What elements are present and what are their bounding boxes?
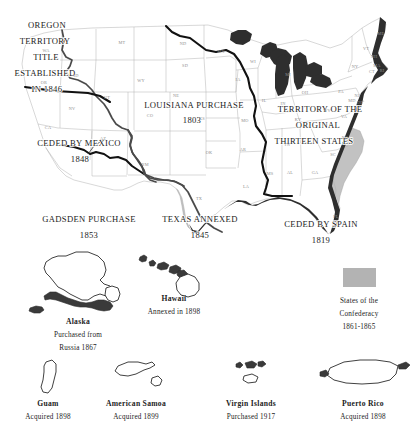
label-louisiana-purchase: LOUISIANA PURCHASE — [144, 100, 244, 110]
state-abbr-il: IL — [262, 98, 267, 103]
state-abbr-nv: NV — [69, 106, 76, 111]
state-abbr-ok: OK — [206, 150, 213, 155]
state-abbr-la: LA — [243, 184, 250, 189]
state-abbr-ut: UT — [104, 95, 110, 100]
state-abbr-ca: CA — [45, 125, 52, 130]
state-abbr-de: DE — [357, 100, 363, 105]
label-thirteen-line1: TERRITORY OF THE — [278, 104, 363, 114]
inset-alaska-name: Alaska — [66, 317, 90, 326]
state-abbr-nd: ND — [180, 41, 187, 46]
state-abbr-mn: MN — [217, 49, 224, 54]
state-abbr-id: ID — [74, 73, 79, 78]
label-ceded-by-mexico: CEDED BY MEXICO — [37, 138, 121, 148]
state-abbr-nm: NM — [141, 162, 148, 167]
inset-guam-sub1: Acquired 1898 — [25, 413, 71, 421]
state-abbr-al: AL — [287, 170, 293, 175]
state-abbr-sd: SD — [182, 63, 188, 68]
confederacy-legend: States of the Confederacy 1861-1865 — [340, 268, 379, 331]
inset-virgin-islands-sub1: Purchased 1917 — [227, 413, 276, 421]
state-abbr-wi: WI — [250, 59, 256, 64]
state-abbr-ny: NY — [352, 64, 359, 69]
label-thirteen-line2: ORIGINAL — [296, 120, 340, 130]
state-abbr-in: IN — [281, 101, 286, 106]
state-abbr-vt: VT — [363, 46, 369, 51]
inset-guam-name: Guam — [37, 399, 59, 408]
inset-guam: Guam Acquired 1898 — [25, 360, 71, 421]
label-oregon-line3: TITLE — [33, 52, 59, 62]
inset-hawaii-sub1: Annexed in 1898 — [148, 308, 201, 316]
label-oregon-line1: OREGON — [28, 20, 66, 30]
inset-american-samoa: American Samoa Acquired 1899 — [106, 362, 166, 421]
inset-samoa-sub1: Acquired 1899 — [113, 413, 159, 421]
inset-alaska-sub2: Russia 1867 — [59, 344, 97, 352]
map-page: OREGON TERRITORY TITLE ESTABLISHED IN 18… — [0, 0, 420, 431]
state-abbr-ne: NE — [173, 93, 179, 98]
state-abbr-nc: NC — [342, 135, 348, 140]
label-oregon-line5: IN 1846 — [32, 84, 63, 94]
label-mexico-year: 1848 — [71, 154, 89, 164]
state-abbr-wa: WA — [42, 48, 50, 53]
inset-puerto-rico-sub1: Acquired 1898 — [340, 413, 386, 421]
state-abbr-co: CO — [147, 113, 153, 118]
legend-line1: States of the — [340, 297, 378, 305]
legend-line3: 1861-1865 — [343, 323, 376, 331]
label-gadsden-purchase: GADSDEN PURCHASE — [42, 214, 136, 224]
inset-hawaii-name: Hawaii — [161, 294, 186, 303]
label-texas-year: 1845 — [191, 230, 209, 240]
territorial-acquisitions-map: OREGON TERRITORY TITLE ESTABLISHED IN 18… — [0, 0, 420, 431]
inset-puerto-rico: Puerto Rico Acquired 1898 — [320, 360, 410, 421]
state-abbr-mt: MT — [119, 40, 126, 45]
inset-virgin-islands-name: Virgin Islands — [226, 399, 276, 408]
state-abbr-wy: WY — [137, 78, 145, 83]
state-abbr-ks: KS — [199, 116, 205, 121]
state-abbr-ct: CT — [369, 69, 375, 74]
label-spain-year: 1819 — [312, 235, 330, 245]
state-abbr-ar: AR — [240, 147, 246, 152]
state-abbr-mi: MI — [285, 72, 291, 77]
inset-virgin-islands: Virgin Islands Purchased 1917 — [226, 361, 276, 421]
state-abbr-az: AZ — [100, 136, 106, 141]
state-abbr-wv: WV — [323, 108, 331, 113]
state-abbr-va: VA — [341, 114, 348, 119]
inset-alaska: Alaska Purchased from Russia 1867 — [29, 252, 120, 352]
state-abbr-ms: MS — [267, 171, 274, 176]
label-texas-annexed: TEXAS ANNEXED — [162, 214, 237, 224]
state-abbr-sc: SC — [330, 152, 336, 157]
state-abbr-me: ME — [378, 31, 385, 36]
state-abbr-fl: FL — [333, 214, 339, 219]
state-abbr-ri: RI — [380, 68, 385, 73]
label-oregon-line4: ESTABLISHED — [15, 68, 76, 78]
inset-puerto-rico-name: Puerto Rico — [342, 399, 384, 408]
legend-line2: Confederacy — [340, 310, 379, 318]
inset-samoa-name: American Samoa — [106, 399, 166, 408]
label-gadsden-year: 1853 — [80, 230, 98, 240]
state-abbr-tn: TN — [284, 142, 290, 147]
state-abbr-or: OR — [41, 80, 47, 85]
legend-swatch — [343, 268, 376, 287]
label-ceded-by-spain: CEDED BY SPAIN — [284, 219, 358, 229]
state-abbr-tx: TX — [196, 196, 203, 201]
state-abbr-mo: MO — [241, 118, 248, 123]
state-abbr-ia: IA — [236, 77, 242, 82]
state-abbr-ga: GA — [312, 170, 319, 175]
state-abbr-ky: KY — [295, 117, 302, 122]
label-oregon-line2: TERRITORY — [20, 36, 71, 46]
inset-hawaii: Hawaii Annexed in 1898 — [139, 255, 200, 316]
state-abbr-nh: NH — [371, 54, 378, 59]
state-abbr-md: MD — [348, 98, 355, 103]
state-abbr-oh: OH — [302, 90, 309, 95]
state-abbr-pa: PA — [338, 89, 344, 94]
inset-alaska-sub1: Purchased from — [54, 331, 102, 339]
